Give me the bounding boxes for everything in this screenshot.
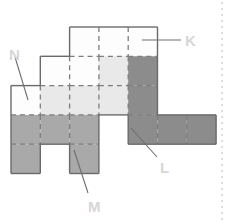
net-cell-r5c1: [11, 144, 40, 173]
net-cell-r3c5: [128, 86, 157, 115]
figure-label-n: N: [9, 47, 20, 62]
figure-label-m: M: [88, 199, 101, 214]
net-cell-r2c5: [128, 56, 157, 85]
net-cell-r1c3: [70, 27, 99, 56]
net-cell-r3c2: [40, 86, 69, 115]
net-cell-r4c6: [158, 115, 187, 144]
net-cell-r5c3: [70, 144, 99, 173]
net-cell-r2c3: [70, 56, 99, 85]
net-cell-r4c7: [187, 115, 216, 144]
net-cell-r3c3: [70, 86, 99, 115]
figure-canvas: KNLM: [0, 0, 227, 224]
figure-label-k: K: [185, 33, 196, 48]
net-cell-r2c4: [99, 56, 128, 85]
net-cell-r3c4: [99, 86, 128, 115]
net-cell-r1c5: [128, 27, 157, 56]
net-cell-r4c1: [11, 115, 40, 144]
net-cell-r4c3: [70, 115, 99, 144]
net-cell-r2c2: [40, 56, 69, 85]
net-cell-r3c1: [11, 86, 40, 115]
figure-label-l: L: [160, 160, 170, 175]
net-cell-r1c4: [99, 27, 128, 56]
net-cell-r4c2: [40, 115, 69, 144]
